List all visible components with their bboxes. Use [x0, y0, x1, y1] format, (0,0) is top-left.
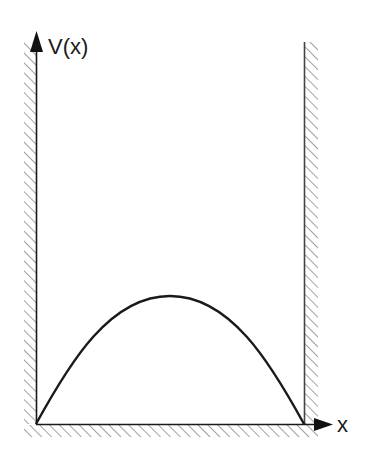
- y-axis-arrow-icon: [30, 31, 43, 52]
- x-axis-label: x: [337, 412, 348, 437]
- x-axis-arrow-icon: [314, 418, 333, 431]
- potential-well-diagram: V(x) x: [0, 0, 367, 470]
- right-wall-hatch: [305, 42, 318, 424]
- potential-curve: [36, 296, 304, 424]
- floor-hatch: [24, 425, 318, 437]
- left-wall-hatch: [24, 42, 36, 424]
- y-axis-label: V(x): [48, 34, 88, 59]
